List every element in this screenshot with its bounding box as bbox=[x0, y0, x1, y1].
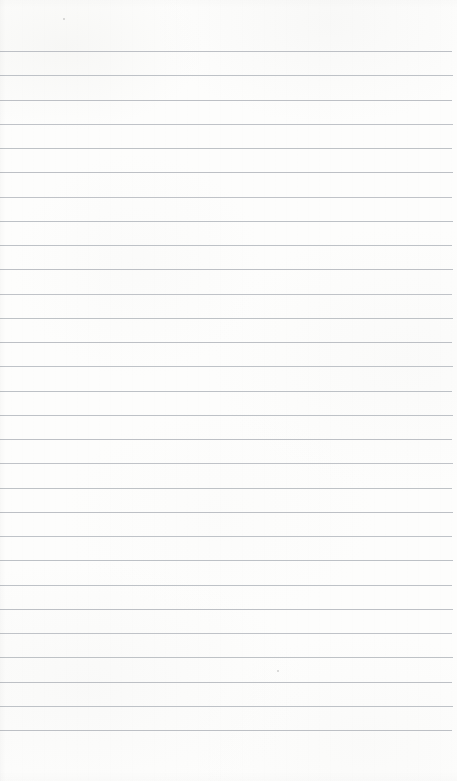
rule-line bbox=[0, 245, 452, 246]
rule-line bbox=[0, 269, 453, 270]
rule-line bbox=[0, 560, 453, 561]
scanner-speck bbox=[63, 18, 65, 20]
rule-line bbox=[0, 657, 453, 658]
rule-line bbox=[0, 100, 452, 101]
rule-line bbox=[0, 439, 452, 440]
rule-line bbox=[0, 730, 452, 731]
rule-line bbox=[0, 609, 453, 610]
rule-line bbox=[0, 488, 452, 489]
rule-line bbox=[0, 51, 452, 52]
rule-line bbox=[0, 318, 453, 319]
rule-line bbox=[0, 294, 452, 295]
rule-line bbox=[0, 463, 453, 464]
scanner-speck bbox=[277, 670, 279, 672]
rule-line bbox=[0, 148, 452, 149]
rule-line bbox=[0, 197, 452, 198]
rule-line bbox=[0, 124, 453, 125]
rule-line bbox=[0, 706, 453, 707]
rule-line bbox=[0, 585, 452, 586]
rule-line bbox=[0, 536, 452, 537]
rule-line bbox=[0, 391, 452, 392]
rule-line bbox=[0, 415, 453, 416]
rule-line bbox=[0, 682, 452, 683]
rule-line bbox=[0, 512, 453, 513]
rule-line bbox=[0, 221, 453, 222]
rule-line bbox=[0, 342, 452, 343]
rule-line bbox=[0, 633, 452, 634]
rule-line bbox=[0, 75, 453, 76]
ruled-lines-layer bbox=[0, 0, 457, 781]
rule-line bbox=[0, 172, 453, 173]
rule-line bbox=[0, 366, 453, 367]
scanned-page bbox=[0, 0, 457, 781]
